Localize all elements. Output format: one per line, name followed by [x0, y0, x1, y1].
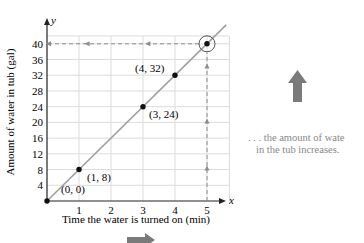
y-tick-label: 32: [32, 69, 43, 81]
y-tick-label: 28: [32, 85, 44, 97]
y-tick-label: 16: [32, 132, 44, 144]
y-tick-label: 8: [38, 164, 44, 176]
point-label: (1, 8): [87, 171, 111, 184]
grid: [47, 36, 229, 201]
data-point: [140, 104, 145, 109]
up-arrow-icon: [288, 70, 307, 102]
y-tick-label: 20: [32, 116, 44, 128]
y-axis-label: Amount of water in tub (gal): [4, 48, 17, 175]
x-axis-label: Time the water is turned on (min): [62, 213, 210, 226]
x-axis-arrow-icon: [219, 198, 226, 204]
data-point: [76, 167, 81, 172]
side-note: . . . the amount of wate in the tub incr…: [248, 132, 364, 156]
x-axis-letter: x: [228, 194, 234, 206]
y-tick-label: 12: [32, 148, 43, 160]
series-line: [47, 25, 226, 201]
y-axis-arrow-icon: [44, 18, 50, 25]
data-point: [44, 198, 49, 203]
data-point: [204, 41, 209, 46]
right-arrow-icon: [127, 233, 155, 243]
y-tick-label: 36: [32, 54, 44, 66]
chart: x y 481216202428323640 12345 Time the wa…: [0, 0, 364, 243]
data-point: [172, 73, 177, 78]
y-tick-label: 40: [32, 38, 44, 50]
y-axis-letter: y: [50, 14, 56, 26]
side-note-line-1: . . . the amount of wate: [248, 132, 364, 144]
y-tick-labels: 481216202428323640: [32, 38, 44, 191]
side-note-line-2: in the tub increases.: [248, 144, 364, 156]
y-tick-label: 4: [38, 179, 44, 191]
point-label: (4, 32): [135, 62, 165, 75]
y-tick-label: 24: [32, 101, 44, 113]
point-label: (3, 24): [149, 108, 179, 121]
point-label: (0, 0): [61, 183, 85, 196]
